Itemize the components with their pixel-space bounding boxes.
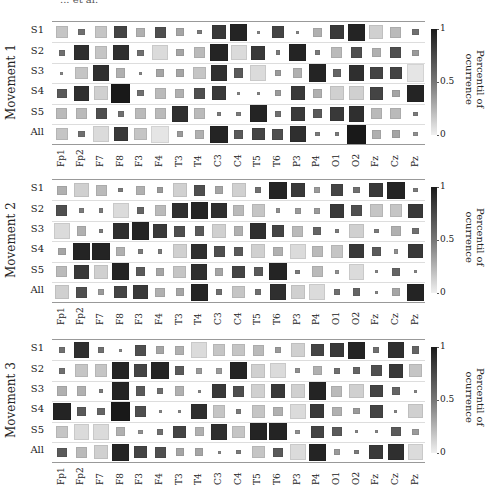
heatmap-cell [135, 345, 146, 356]
heatmap-cell [56, 205, 67, 216]
heatmap-cell [271, 384, 285, 398]
colorbar-title-line1: Percentil of [475, 368, 486, 426]
heatmap-cell [94, 445, 108, 459]
heatmap-cell [215, 186, 223, 194]
heatmap-cell [218, 451, 221, 454]
channel-label: T4 [193, 474, 203, 486]
row-separator [52, 104, 425, 105]
row-label: S1 [14, 24, 44, 35]
heatmap-cell [407, 284, 424, 301]
heatmap-cell [59, 368, 65, 374]
heatmap-cell [211, 203, 227, 219]
heatmap-cell [335, 132, 340, 137]
colorbar-tick-mark [437, 135, 439, 136]
colorbar-tick-mark [437, 347, 439, 348]
heatmap-cell [56, 26, 69, 39]
heatmap-cell [312, 266, 323, 277]
heatmap-cell [333, 69, 341, 77]
heatmap-cell [292, 226, 303, 237]
heatmap-cell [56, 128, 69, 141]
heatmap-cell [175, 366, 184, 375]
heatmap-cell [59, 347, 65, 353]
heatmap-cell [114, 26, 127, 39]
heatmap-cell [172, 106, 188, 122]
channel-label: C3 [213, 473, 223, 486]
heatmap-cell [412, 346, 420, 354]
heatmap-cell [73, 243, 90, 260]
heatmap-cell [330, 343, 344, 357]
heatmap-cell [194, 108, 205, 119]
heatmap-cell [334, 368, 340, 374]
heatmap-cell [54, 223, 70, 239]
heatmap-cell [290, 126, 306, 142]
heatmap-cell [237, 92, 240, 95]
heatmap-cell [275, 90, 281, 96]
row-separator [52, 442, 425, 443]
heatmap-cell [151, 126, 168, 143]
heatmap-cell [392, 268, 400, 276]
heatmap-cell [78, 131, 84, 137]
heatmap-cell [113, 203, 129, 219]
heatmap-cell [370, 204, 383, 217]
heatmap-cell [349, 244, 363, 258]
heatmap-cell [232, 286, 245, 299]
heatmap-cell [172, 203, 188, 219]
heatmap-cell [311, 426, 324, 439]
row-label: All [14, 126, 44, 137]
heatmap-cell [198, 390, 201, 393]
heatmap-cell [231, 45, 247, 61]
row-label: All [14, 284, 44, 295]
row-label: S5 [14, 424, 44, 435]
colorbar-tick-mark [437, 240, 439, 241]
heatmap-cell [291, 384, 305, 398]
heatmap-cell [96, 108, 107, 119]
channel-label: P3 [292, 314, 302, 326]
channel-label: Pz [410, 157, 420, 168]
heatmap-cell [370, 67, 383, 80]
heatmap-cell [233, 386, 244, 397]
heatmap-cell [216, 368, 222, 374]
heatmap-cell [275, 111, 281, 117]
heatmap-cell [375, 430, 378, 433]
heatmap-cell [291, 285, 305, 299]
heatmap-cell [173, 183, 187, 197]
row-separator [52, 221, 425, 222]
heatmap-cell [74, 265, 88, 279]
heatmap-cell [155, 27, 166, 38]
heatmap-cell [273, 407, 282, 416]
heatmap-cell [314, 208, 320, 214]
heatmap-cell [135, 406, 146, 417]
heatmap-cell [315, 50, 320, 55]
heatmap-cell [234, 226, 243, 235]
heatmap-cell [176, 288, 184, 296]
heatmap-cell [407, 85, 424, 102]
heatmap-cell [251, 244, 265, 258]
heatmap-panel-3 [52, 339, 425, 463]
heatmap-panel-1 [52, 21, 425, 145]
heatmap-cell [191, 284, 208, 301]
heatmap-cell [251, 384, 265, 398]
channel-label: T4 [193, 314, 203, 326]
heatmap-cell [349, 65, 365, 81]
heatmap-cell [136, 28, 145, 37]
heatmap-cell [56, 426, 69, 439]
heatmap-cell [275, 70, 281, 76]
heatmap-cell [236, 112, 241, 117]
channel-label: F7 [95, 313, 105, 325]
channel-label: O1 [331, 154, 341, 167]
heatmap-cell [173, 266, 186, 279]
channel-label: F8 [115, 313, 125, 325]
heatmap-cell [309, 64, 326, 81]
heatmap-cell [290, 404, 306, 420]
heatmap-cell [375, 270, 378, 273]
heatmap-cell [414, 390, 417, 393]
heatmap-cell [176, 448, 184, 456]
colorbar-tick-mark [437, 400, 439, 401]
row-label: S3 [14, 223, 44, 234]
heatmap-cell [369, 25, 383, 39]
colorbar-tick-label: 0.5 [440, 394, 454, 404]
heatmap-cell [408, 404, 422, 418]
heatmap-cell [408, 244, 422, 258]
heatmap-cell [112, 362, 129, 379]
heatmap-cell [230, 362, 247, 379]
